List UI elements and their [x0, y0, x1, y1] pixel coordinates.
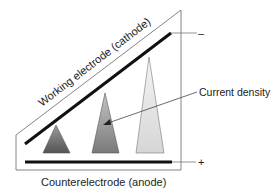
diagram-canvas: Working electrode (cathode) Current dens…	[0, 0, 279, 195]
anode-terminal-sign: +	[198, 156, 204, 168]
current-density-triangle-small	[43, 125, 70, 153]
cell-diagram: Working electrode (cathode) Current dens…	[0, 0, 279, 195]
current-density-label: Current density	[199, 86, 271, 98]
anode-label: Counterelectrode (anode)	[41, 176, 166, 188]
cathode-terminal-sign: –	[198, 27, 205, 39]
